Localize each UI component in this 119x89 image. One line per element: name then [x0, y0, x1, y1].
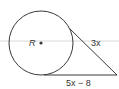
tangent-diagram: R 3x 5x − 8	[0, 0, 119, 89]
upper-tangent-label: 3x	[91, 38, 101, 48]
tangent-segment-upper	[70, 29, 117, 75]
lower-tangent-label: 5x − 8	[66, 78, 91, 88]
center-dot	[39, 41, 42, 44]
circle-label: R	[29, 38, 36, 48]
faint-band	[0, 40, 119, 42]
